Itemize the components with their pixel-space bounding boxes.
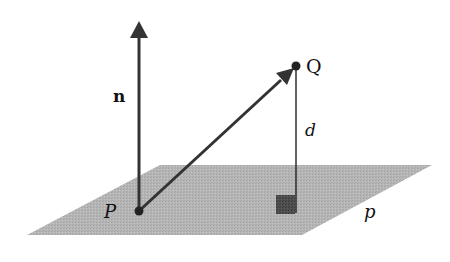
point-p [135,207,144,216]
normal-vector-arrowhead-icon [130,21,148,38]
right-angle-marker [276,195,295,214]
label-d: d [305,120,316,140]
label-p-point: P [103,201,117,222]
label-plane-p: p [364,201,376,222]
plane [27,165,432,235]
label-n: n [113,86,125,106]
point-q [292,62,301,71]
point-plane-distance-diagram: n Q d P p [0,0,450,262]
label-q: Q [306,55,322,77]
